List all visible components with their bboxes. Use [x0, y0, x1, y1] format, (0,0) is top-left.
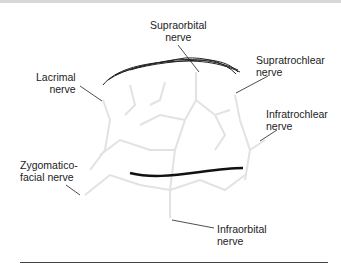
label-line: nerve: [266, 120, 328, 132]
label-infratrochlear-nerve: Infratrochlear nerve: [266, 108, 328, 132]
label-line: Supratrochlear: [256, 54, 325, 66]
label-infraorbital-nerve: Infraorbital nerve: [217, 223, 267, 247]
bottom-rule: [20, 262, 328, 263]
label-line: facial nerve: [20, 171, 78, 183]
eyebrow: [103, 58, 240, 85]
label-line: Supraorbital: [150, 19, 207, 31]
label-line: Zygomatico-: [20, 159, 78, 171]
nerve-branches: [85, 72, 265, 218]
label-line: Infraorbital: [217, 223, 267, 235]
label-supraorbital-nerve: Supraorbital nerve: [150, 19, 207, 43]
label-line: nerve: [150, 31, 207, 43]
label-line: Lacrimal: [36, 71, 76, 83]
label-zygomaticofacial-nerve: Zygomatico- facial nerve: [20, 159, 78, 183]
label-line: nerve: [256, 66, 325, 78]
label-line: nerve: [217, 235, 267, 247]
eyelid-line: [130, 168, 243, 176]
label-line: Infratrochlear: [266, 108, 328, 120]
label-supratrochlear-nerve: Supratrochlear nerve: [256, 54, 325, 78]
label-line: nerve: [36, 83, 76, 95]
label-lacrimal-nerve: Lacrimal nerve: [36, 71, 76, 95]
